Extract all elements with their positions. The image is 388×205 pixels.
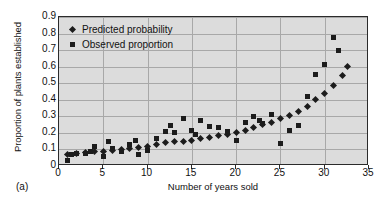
data-point-square [193,132,198,137]
chart-legend: Predicted probabilityObserved proportion [67,22,173,52]
x-axis-title: Number of years sold [58,181,368,192]
figure-panel: Proportion of plants established 00.10.2… [0,0,388,205]
x-tick-label: 25 [264,167,294,178]
data-point-diamond [295,108,302,115]
x-tick-label: 5 [87,167,117,178]
x-tick-label: 10 [132,167,162,178]
y-tick-label: 0.4 [24,93,56,105]
y-tick-label: 0.6 [24,60,56,72]
data-point-square [74,151,79,156]
data-point-square [322,62,327,67]
data-point-square [133,138,138,143]
gridline-horizontal [59,133,367,134]
data-point-square [243,120,248,125]
data-point-square [313,72,318,77]
legend-item: Observed proportion [67,37,173,52]
data-point-diamond [162,139,169,146]
x-tick-label: 0 [43,167,73,178]
x-tick-label: 20 [220,167,250,178]
data-point-square [110,146,115,151]
data-point-square [172,130,177,135]
diamond-marker-icon [67,27,77,32]
data-point-square [287,128,292,133]
legend-item: Predicted probability [67,22,173,37]
data-point-diamond [286,112,293,119]
gridline-horizontal [59,17,367,18]
data-point-diamond [344,63,351,70]
data-point-diamond [179,138,186,145]
data-point-square [88,149,93,154]
data-point-square [181,116,186,121]
data-point-square [278,141,283,146]
data-point-square [251,114,256,119]
data-point-square [216,125,221,130]
y-tick-label: 0.9 [24,10,56,22]
data-point-square [154,136,159,141]
figure-caption: (a) [16,181,28,192]
y-tick-label: 0.7 [24,43,56,55]
data-point-square [225,129,230,134]
data-point-diamond [206,133,213,140]
data-point-square [207,124,212,129]
data-point-diamond [312,96,319,103]
data-point-square [69,152,74,157]
data-point-square [101,154,106,159]
y-tick-label: 0.3 [24,109,56,121]
data-point-square [106,139,111,144]
data-point-diamond [171,138,178,145]
y-tick-label: 0.8 [24,27,56,39]
data-point-diamond [250,124,257,131]
data-point-square [260,121,265,126]
data-point-square [336,48,341,53]
data-point-square [331,35,336,40]
data-point-square [145,148,150,153]
legend-label: Observed proportion [82,39,173,50]
data-point-diamond [303,103,310,110]
data-point-square [92,144,97,149]
data-point-diamond [153,141,160,148]
x-tick-label: 30 [309,167,339,178]
data-point-square [119,149,124,154]
data-point-diamond [188,137,195,144]
plot-area: Predicted probabilityObserved proportion [58,16,368,165]
data-point-square [83,151,88,156]
y-tick-label: 0.1 [24,142,56,154]
data-point-square [65,158,70,163]
data-point-square [127,142,132,147]
y-tick-label: 0.2 [24,126,56,138]
data-point-square [296,123,301,128]
data-point-square [168,123,173,128]
y-tick-label: 0.5 [24,76,56,88]
x-axis-tick-labels: 05101520253035 [58,167,368,181]
data-point-diamond [339,72,346,79]
data-point-diamond [197,135,204,142]
gridline-horizontal [59,83,367,84]
data-point-diamond [268,119,275,126]
data-point-square [305,94,310,99]
x-tick-label: 35 [353,167,383,178]
data-point-square [234,138,239,143]
data-point-diamond [321,90,328,97]
gridline-horizontal [59,116,367,117]
gridline-horizontal [59,100,367,101]
data-point-square [269,112,274,117]
data-point-square [136,152,141,157]
data-point-square [163,129,168,134]
gridline-horizontal [59,67,367,68]
legend-label: Predicted probability [82,24,173,35]
data-point-diamond [233,129,240,136]
x-tick-label: 15 [176,167,206,178]
y-axis-tick-labels: 00.10.20.30.40.50.60.70.80.9 [24,16,56,165]
square-marker-icon [67,42,77,47]
data-point-square [198,118,203,123]
